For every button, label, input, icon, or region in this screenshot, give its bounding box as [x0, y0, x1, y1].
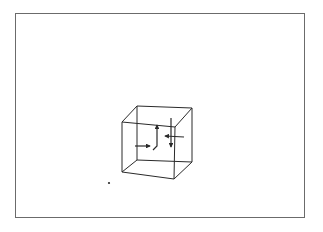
arrows — [135, 118, 184, 150]
cube-front-face — [122, 122, 175, 179]
dot-marker — [108, 182, 110, 184]
cube-edge — [174, 162, 192, 179]
cube-edge — [175, 108, 192, 127]
arrow-left-icon — [165, 136, 184, 137]
cube-edge — [122, 106, 137, 122]
cube-edge — [122, 160, 137, 172]
cube-back-face — [137, 106, 192, 162]
arrow-up-icon — [153, 125, 157, 150]
cube-diagram — [0, 0, 323, 232]
